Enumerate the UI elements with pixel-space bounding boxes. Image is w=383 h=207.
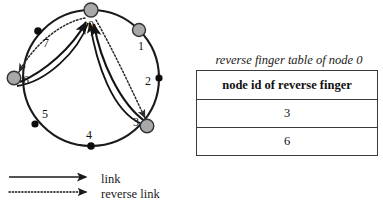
ring-node-6[interactable] xyxy=(7,71,21,85)
table-caption: reverse finger table of node 0 xyxy=(196,53,382,68)
reverse-finger-table: node id of reverse finger 3 6 xyxy=(196,70,378,156)
ring-node-label-1: 1 xyxy=(138,39,144,53)
ring-node-label-0: 0 xyxy=(88,18,94,32)
link-6-to-0 xyxy=(20,22,86,82)
ring-node-2[interactable] xyxy=(155,74,162,81)
reverse-finger-table-figure: reverse finger table of node 0 node id o… xyxy=(190,0,383,207)
table-header-row: node id of reverse finger xyxy=(197,71,378,100)
ring-node-label-7: 7 xyxy=(43,36,49,50)
legend-label-reverse-link: reverse link xyxy=(101,188,160,201)
table-row: 3 xyxy=(197,100,378,128)
ring-node-label-6: 6 xyxy=(23,73,29,87)
ring-node-7[interactable] xyxy=(34,27,42,35)
ring-node-3[interactable] xyxy=(140,119,154,133)
ring-node-label-3: 3 xyxy=(133,115,139,129)
table-column-header: node id of reverse finger xyxy=(197,71,378,100)
chord-ring-svg: 0 1 2 3 4 5 6 7 xyxy=(0,0,190,207)
ring-node-label-5: 5 xyxy=(42,107,48,121)
ring-node-label-2: 2 xyxy=(145,74,151,88)
table-row: 6 xyxy=(197,128,378,156)
ring-node-label-4: 4 xyxy=(86,128,92,142)
legend-label-link: link xyxy=(101,173,120,186)
table-cell-reverse-finger-1: 6 xyxy=(197,128,378,156)
ring-node-4[interactable] xyxy=(87,142,95,150)
table-cell-reverse-finger-0: 3 xyxy=(197,100,378,128)
chord-ring-figure: 0 1 2 3 4 5 6 7 link reverse link xyxy=(0,0,190,207)
ring-node-5[interactable] xyxy=(31,120,38,127)
ring-node-0[interactable] xyxy=(84,3,98,17)
reverse-link-0-to-6 xyxy=(19,18,85,72)
ring-node-1[interactable] xyxy=(133,24,146,37)
